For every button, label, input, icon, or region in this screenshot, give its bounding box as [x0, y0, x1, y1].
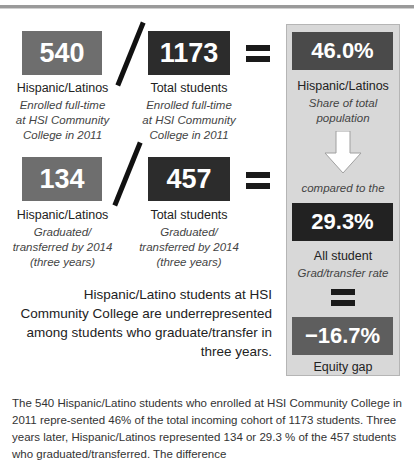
total-enrolled-sub: Enrolled full-time at HSI Community Coll…: [136, 98, 242, 143]
hispanic-graduated-sub: Graduated/ transferred by 2014 (three ye…: [10, 225, 115, 270]
gap-box: −16.7%: [292, 317, 393, 355]
explanatory-paragraph: The 540 Hispanic/Latino students who enr…: [12, 395, 404, 463]
top-rule: [0, 5, 414, 9]
compared-text: compared to the: [287, 181, 399, 196]
total-enrolled-box: 1173: [148, 31, 230, 75]
share-sub: Share of total population: [287, 96, 399, 126]
total-graduated-box: 457: [148, 157, 230, 201]
rate-label: All student: [287, 249, 399, 263]
hispanic-graduated-value: 134: [39, 164, 84, 195]
hispanic-graduated-box: 134: [22, 157, 102, 201]
division-slash-2: [112, 142, 142, 207]
division-slash-1: [115, 22, 145, 87]
share-label: Hispanic/Latinos: [287, 79, 399, 93]
gap-label: Equity gap: [287, 360, 399, 374]
summary-statement: Hispanic/Latino students at HSI Communit…: [12, 285, 272, 361]
hispanic-enrolled-value: 540: [39, 38, 84, 69]
rate-sub: Grad/transfer rate: [287, 266, 399, 281]
rate-box: 29.3%: [292, 203, 393, 241]
equals-sign-1: [246, 45, 270, 63]
hispanic-graduated-label: Hispanic/Latinos: [10, 208, 115, 222]
hispanic-enrolled-label: Hispanic/Latinos: [10, 81, 115, 95]
hispanic-enrolled-box: 540: [22, 31, 102, 75]
hispanic-enrolled-sub: Enrolled full-time at HSI Community Coll…: [10, 98, 115, 143]
equals-sign-2: [246, 172, 270, 190]
total-enrolled-value: 1173: [160, 38, 219, 69]
equals-sign-3: [331, 289, 355, 307]
total-graduated-sub: Graduated/ transferred by 2014 (three ye…: [136, 225, 242, 270]
share-box: 46.0%: [292, 32, 393, 70]
share-value: 46.0%: [311, 38, 373, 64]
total-graduated-value: 457: [166, 164, 211, 195]
gap-value: −16.7%: [305, 323, 380, 349]
rate-value: 29.3%: [311, 209, 373, 235]
down-arrow-icon: [323, 131, 363, 175]
summary-panel: 46.0% Hispanic/Latinos Share of total po…: [286, 24, 400, 376]
total-enrolled-label: Total students: [136, 81, 242, 95]
total-graduated-label: Total students: [136, 208, 242, 222]
